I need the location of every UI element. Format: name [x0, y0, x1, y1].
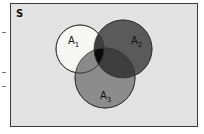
- universe-label: S: [16, 8, 23, 19]
- venn-diagram: S A1 A2 A3: [0, 0, 204, 134]
